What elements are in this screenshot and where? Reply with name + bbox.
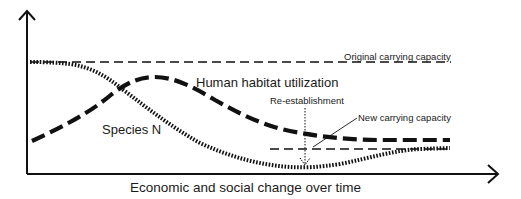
species-n-label: Species N bbox=[102, 123, 161, 136]
re-establishment-arrow bbox=[300, 108, 310, 165]
re-establishment-label: Re-establishment bbox=[270, 96, 344, 106]
human-habitat-label: Human habitat utilization bbox=[196, 76, 338, 89]
original-capacity-label: Original carrying capacity bbox=[344, 52, 451, 62]
diagram-canvas bbox=[0, 0, 521, 199]
x-axis-label: Economic and social change over time bbox=[130, 181, 361, 195]
new-capacity-leader bbox=[313, 118, 357, 147]
new-capacity-label: New carrying capacity bbox=[358, 113, 451, 123]
y-axis bbox=[19, 11, 35, 174]
